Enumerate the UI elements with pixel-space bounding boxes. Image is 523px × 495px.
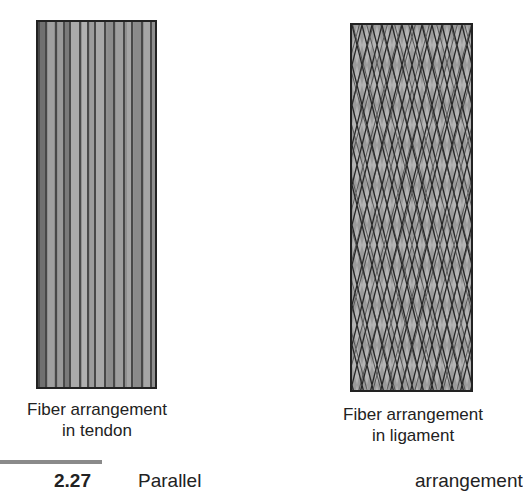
figure-caption-line: 2.27 Parallel arrangement — [0, 470, 512, 495]
figure-number: 2.27 — [54, 470, 91, 492]
ligament-fiber-illustration — [350, 23, 473, 392]
parallel-fibers-graphic — [38, 22, 155, 387]
ligament-caption: Fiber arrangement in ligament — [318, 404, 508, 446]
tendon-caption-line2: in tendon — [0, 420, 194, 441]
tendon-caption-line1: Fiber arrangement — [0, 399, 194, 420]
crisscross-fibers-graphic — [352, 25, 471, 390]
tendon-caption: Fiber arrangement in tendon — [0, 399, 194, 441]
tendon-fiber-illustration — [36, 20, 157, 389]
figure-caption-start: Parallel — [138, 470, 201, 492]
figure-caption-continued: arrangement — [415, 470, 523, 492]
ligament-caption-line2: in ligament — [318, 425, 508, 446]
figure-caption-rule — [0, 460, 102, 464]
ligament-caption-line1: Fiber arrangement — [318, 404, 508, 425]
